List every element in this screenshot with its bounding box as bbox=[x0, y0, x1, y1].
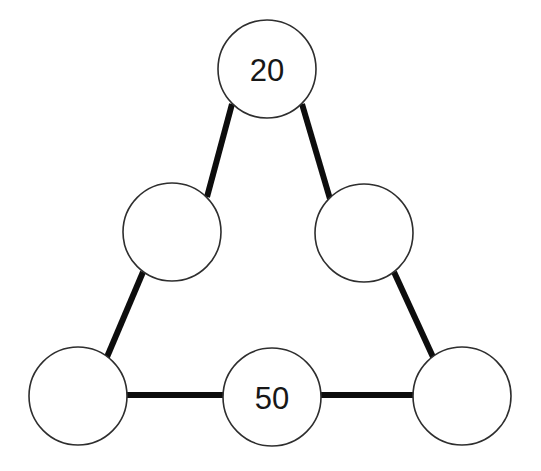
node-bottom-right[interactable] bbox=[413, 347, 511, 445]
edge-mid-left--bottom-left bbox=[107, 272, 143, 357]
node-mid-left[interactable] bbox=[123, 183, 221, 281]
node-circle-mid-right[interactable] bbox=[315, 184, 413, 282]
edge-mid-right--bottom-right bbox=[394, 272, 433, 357]
nodes-group: 2050 bbox=[29, 20, 511, 446]
node-bottom-middle[interactable]: 50 bbox=[223, 348, 321, 446]
node-circle-bottom-right[interactable] bbox=[413, 347, 511, 445]
node-bottom-left[interactable] bbox=[29, 347, 127, 445]
triangle-diagram: 2050 bbox=[0, 0, 541, 471]
edge-top--mid-right bbox=[302, 104, 330, 199]
edge-top--mid-left bbox=[207, 104, 232, 197]
node-circle-bottom-left[interactable] bbox=[29, 347, 127, 445]
node-label-bottom-middle: 50 bbox=[255, 381, 289, 416]
node-circle-mid-left[interactable] bbox=[123, 183, 221, 281]
node-label-top: 20 bbox=[250, 53, 284, 88]
node-top[interactable]: 20 bbox=[218, 20, 316, 118]
node-mid-right[interactable] bbox=[315, 184, 413, 282]
puzzle-canvas: 2050 bbox=[0, 0, 541, 471]
